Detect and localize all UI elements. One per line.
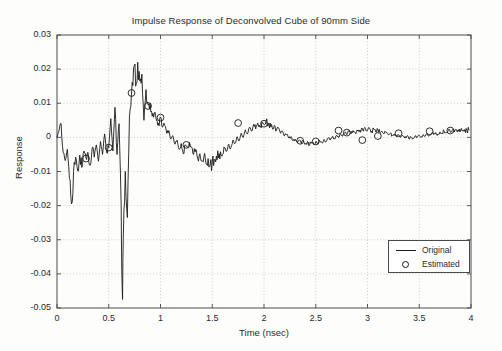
x-tick-label: 3: [353, 313, 383, 323]
x-tick-label: 0: [42, 313, 72, 323]
x-tick-label: 3.5: [404, 313, 434, 323]
legend-line-icon: [394, 243, 418, 258]
legend-entry-original: Original: [389, 243, 471, 258]
x-tick-label: 4: [456, 313, 486, 323]
y-tick-label: 0.01: [11, 97, 51, 107]
legend: Original Estimated: [388, 240, 470, 273]
plot-area: [0, 0, 502, 351]
x-tick-label: 1: [146, 313, 176, 323]
y-tick-label: -0.03: [11, 234, 51, 244]
y-tick-label: -0.02: [11, 200, 51, 210]
y-tick-label: -0.04: [11, 268, 51, 278]
y-tick-label: 0.02: [11, 63, 51, 73]
y-tick-label: 0.03: [11, 29, 51, 39]
legend-entry-estimated: Estimated: [389, 257, 471, 272]
x-tick-label: 0.5: [94, 313, 124, 323]
y-tick-label: -0.01: [11, 166, 51, 176]
legend-label-original: Original: [422, 245, 451, 255]
y-tick-label: 0: [11, 131, 51, 141]
x-tick-label: 2: [249, 313, 279, 323]
legend-label-estimated: Estimated: [422, 259, 460, 269]
x-tick-label: 2.5: [301, 313, 331, 323]
legend-circle-icon: [394, 257, 418, 272]
figure-canvas: Impulse Response of Deconvolved Cube of …: [0, 0, 502, 351]
x-tick-label: 1.5: [197, 313, 227, 323]
y-tick-label: -0.05: [11, 302, 51, 312]
